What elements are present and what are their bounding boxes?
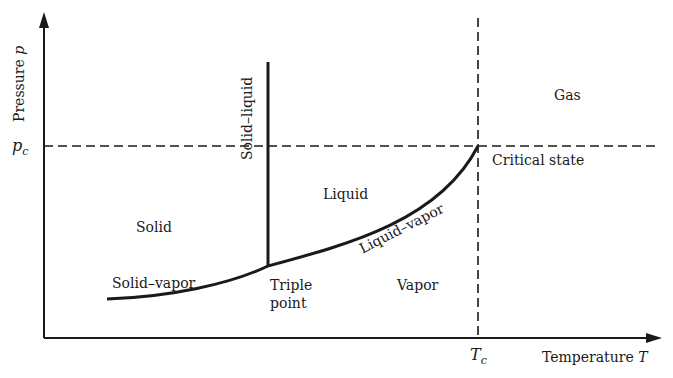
region-liquid-label: Liquid bbox=[323, 187, 368, 201]
solid-vapor-label: Solid–vapor bbox=[112, 276, 195, 290]
phase-diagram: Pressure p pc Tc Temperature T Solid–liq… bbox=[0, 0, 673, 378]
y-axis-label-text: Pressure bbox=[11, 59, 27, 122]
region-gas-label: Gas bbox=[554, 88, 581, 102]
tc-symbol: T bbox=[470, 345, 481, 364]
region-vapor-label: Vapor bbox=[397, 278, 438, 292]
x-axis-label: Temperature T bbox=[542, 350, 648, 364]
x-axis-symbol: T bbox=[638, 349, 647, 365]
triple-point-label-line1: Triple bbox=[270, 278, 312, 292]
critical-pressure-tick: pc bbox=[12, 138, 28, 157]
y-axis-symbol: p bbox=[11, 46, 27, 55]
x-axis-label-text: Temperature bbox=[542, 349, 634, 365]
triple-point-label-line2: point bbox=[270, 296, 307, 310]
solid-liquid-label: Solid–liquid bbox=[240, 77, 254, 160]
critical-state-label: Critical state bbox=[492, 153, 584, 167]
y-axis-label: Pressure p bbox=[12, 46, 26, 122]
region-solid-label: Solid bbox=[136, 220, 172, 234]
critical-temperature-tick: Tc bbox=[470, 347, 487, 366]
pc-subscript: c bbox=[22, 145, 28, 158]
x-axis-arrow-icon bbox=[646, 333, 662, 343]
tc-subscript: c bbox=[481, 354, 487, 367]
y-axis-arrow-icon bbox=[39, 12, 49, 28]
pc-symbol: p bbox=[12, 136, 22, 155]
